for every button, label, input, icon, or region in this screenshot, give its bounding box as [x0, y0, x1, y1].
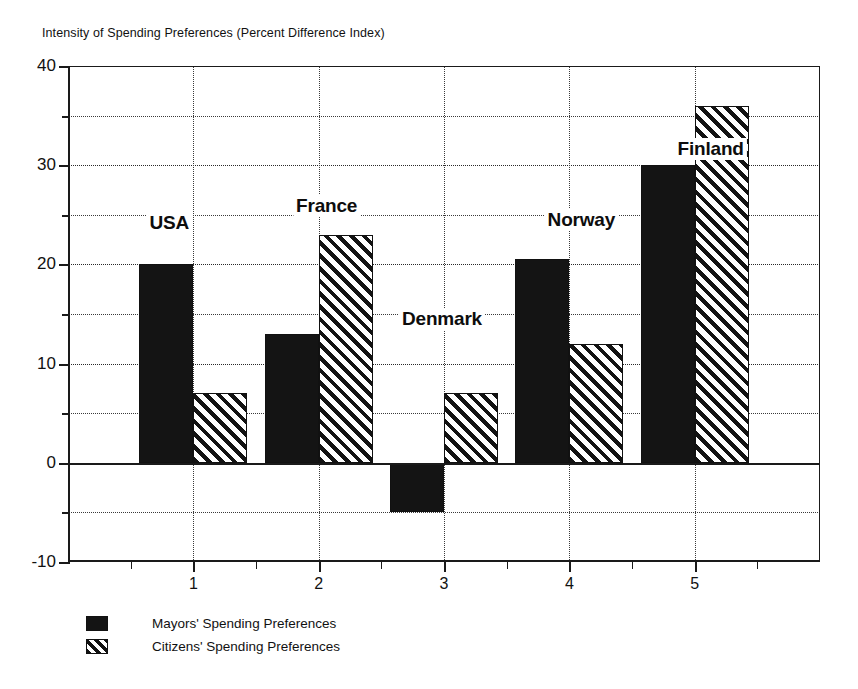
x-tick-minor — [507, 562, 508, 569]
annotation-denmark: Denmark — [399, 308, 485, 330]
x-tick-major — [569, 562, 571, 572]
legend-item-mayors: Mayors' Spending Preferences — [86, 612, 506, 635]
bar-mayors-1 — [139, 264, 193, 462]
y-tick-minor — [62, 512, 70, 514]
x-tick-major — [319, 562, 321, 572]
y-tick-major — [59, 562, 70, 564]
x-tick-minor — [632, 562, 633, 569]
bar-mayors-3 — [390, 463, 444, 513]
legend-item-citizens: Citizens' Spending Preferences — [86, 635, 506, 658]
chart-figure: Intensity of Spending Preferences (Perce… — [0, 0, 858, 689]
y-tick-minor — [62, 215, 70, 217]
y-axis-label: 40 — [37, 56, 56, 76]
bar-mayors-4 — [515, 259, 569, 462]
bar-citizens-1 — [193, 393, 247, 462]
y-tick-minor — [62, 116, 70, 118]
x-tick-minor — [381, 562, 382, 569]
x-tick-major — [444, 562, 446, 572]
y-tick-major — [59, 364, 70, 366]
x-axis-label: 5 — [690, 575, 699, 593]
x-tick-major — [193, 562, 195, 572]
x-tick-minor — [131, 562, 132, 569]
y-tick-minor — [62, 314, 70, 316]
y-axis-label: 20 — [37, 254, 56, 274]
bar-mayors-2 — [265, 334, 319, 463]
x-axis-label: 4 — [565, 575, 574, 593]
x-tick-minor — [757, 562, 758, 569]
bar-citizens-2 — [319, 235, 373, 463]
chart-title: Intensity of Spending Preferences (Perce… — [42, 26, 385, 40]
y-axis-label: 10 — [37, 354, 56, 374]
bar-mayors-5 — [641, 165, 695, 463]
y-axis-label: 0 — [47, 453, 56, 473]
x-tick-major — [695, 562, 697, 572]
gridline-vertical — [569, 66, 570, 562]
y-axis-label: -10 — [31, 552, 56, 572]
x-tick-minor — [256, 562, 257, 569]
annotation-france: France — [293, 195, 360, 217]
y-tick-major — [59, 165, 70, 167]
x-axis-label: 1 — [189, 575, 198, 593]
legend-label: Citizens' Spending Preferences — [152, 639, 340, 654]
bar-citizens-3 — [444, 393, 498, 462]
annotation-finland: Finland — [675, 138, 747, 160]
y-tick-major — [59, 463, 70, 465]
annotation-norway: Norway — [545, 209, 618, 231]
zero-baseline — [68, 463, 820, 465]
legend-swatch-mayors — [86, 616, 108, 631]
y-tick-major — [59, 264, 70, 266]
legend-label: Mayors' Spending Preferences — [152, 616, 336, 631]
annotation-usa: USA — [147, 212, 193, 234]
gridline-vertical — [193, 66, 194, 562]
y-tick-major — [59, 66, 70, 68]
x-axis-label: 3 — [440, 575, 449, 593]
y-tick-minor — [62, 413, 70, 415]
plot-area: USAFranceDenmarkNorwayFinland 403020100-… — [68, 66, 820, 562]
legend-swatch-citizens — [86, 639, 108, 654]
bar-citizens-4 — [569, 344, 623, 463]
y-axis-label: 30 — [37, 155, 56, 175]
x-axis-label: 2 — [314, 575, 323, 593]
chart-legend: Mayors' Spending PreferencesCitizens' Sp… — [86, 612, 506, 658]
